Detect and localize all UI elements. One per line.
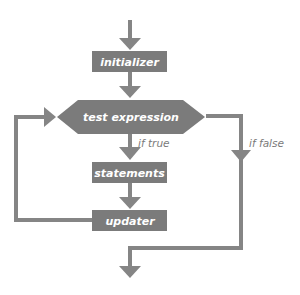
updater-arrowhead-icon xyxy=(119,197,141,209)
node-initializer: initializer xyxy=(92,51,167,72)
loop-arrowhead-icon xyxy=(44,107,56,127)
false-arrowhead-icon xyxy=(231,150,251,162)
initializer-label: initializer xyxy=(100,56,159,69)
end-arrowhead-icon xyxy=(119,266,141,278)
statements-label: statements xyxy=(94,167,165,180)
if-true-label: if true xyxy=(138,137,170,149)
test-expression-label: test expression xyxy=(83,111,179,124)
init-arrowhead-icon xyxy=(119,86,141,98)
node-updater: updater xyxy=(92,210,167,231)
updater-label: updater xyxy=(105,215,155,228)
node-statements: statements xyxy=(92,162,167,183)
if-false-label: if false xyxy=(249,137,284,149)
start-arrowhead-icon xyxy=(119,38,141,50)
flowchart: initializer test expression statements u… xyxy=(0,0,300,295)
node-test-expression: test expression xyxy=(57,100,205,134)
